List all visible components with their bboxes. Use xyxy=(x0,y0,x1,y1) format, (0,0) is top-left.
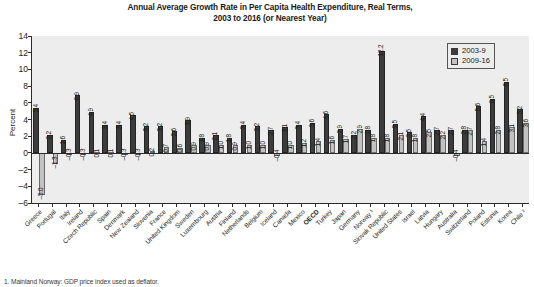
bar-value-label: 3.1 xyxy=(508,124,514,132)
bar-value-label: 3.2 xyxy=(143,123,149,131)
bar-value-label: 3.1 xyxy=(281,124,287,132)
x-axis-tick-mark xyxy=(287,203,288,207)
bar xyxy=(130,115,136,153)
bar-value-label: 5.4 xyxy=(32,104,38,112)
x-axis-tick-mark xyxy=(232,203,233,207)
x-axis-tick-mark xyxy=(494,203,495,207)
x-axis-tick-mark xyxy=(52,203,53,207)
bar-value-label: 1.8 xyxy=(384,134,390,142)
bar-value-label: 2.8 xyxy=(495,126,501,134)
y-axis-tick-mark xyxy=(28,52,31,53)
bar-value-label: 12.2 xyxy=(378,44,384,56)
bar-value-label: 1.0 xyxy=(246,141,252,149)
x-axis-line xyxy=(31,203,529,204)
x-axis-tick-mark xyxy=(93,203,94,207)
bar-value-label: 2.7 xyxy=(467,127,473,135)
x-axis-tick-mark xyxy=(121,203,122,207)
bar-value-label: 0.9 xyxy=(190,142,196,150)
x-axis-tick-mark xyxy=(398,203,399,207)
bar-value-label: 0.7 xyxy=(163,144,169,152)
x-axis-tick-mark xyxy=(508,203,509,207)
legend-item-2003-9: 2003-9 xyxy=(451,46,490,56)
x-axis-tick-mark xyxy=(245,203,246,207)
x-axis-tick-mark xyxy=(453,203,454,207)
x-axis-tick-mark xyxy=(149,203,150,207)
chart-title-line-1: Annual Average Growth Rate in Per Capita… xyxy=(40,3,500,14)
y-axis-tick-mark xyxy=(28,69,31,70)
x-axis-tick-mark xyxy=(38,203,39,207)
bar-value-label: 2.2 xyxy=(439,131,445,139)
y-axis-tick-mark xyxy=(28,119,31,120)
legend-label-2003-9: 2003-9 xyxy=(462,46,486,56)
bar-value-label: 0.6 xyxy=(176,144,182,152)
x-axis-tick-mark xyxy=(522,203,523,207)
bar-value-label: 1.4 xyxy=(481,138,487,146)
x-axis-tick-mark xyxy=(467,203,468,207)
bar-value-label: 3.5 xyxy=(392,120,398,128)
bar-value-label: 4.4 xyxy=(419,113,425,121)
bar-value-label: 0.9 xyxy=(232,142,238,150)
bar-value-label: 3.6 xyxy=(309,119,315,127)
x-axis-tick-mark xyxy=(328,203,329,207)
chart-footnote: 1. Mainland Norway: GDP price index used… xyxy=(4,278,159,285)
bar-value-label: 5.2 xyxy=(516,106,522,114)
chart-title: Annual Average Growth Rate in Per Capita… xyxy=(40,3,500,24)
bar-value-label: –1.3 xyxy=(52,157,58,169)
y-axis-tick-mark xyxy=(28,186,31,187)
y-axis-tick-mark xyxy=(28,152,31,153)
bar-value-label: 3.4 xyxy=(295,121,301,129)
bar-value-label: 6.5 xyxy=(489,95,495,103)
chart-container: Annual Average Growth Rate in Per Capita… xyxy=(0,0,534,287)
x-axis-tick-mark xyxy=(204,203,205,207)
bar-value-label: 2.2 xyxy=(46,131,52,139)
y-axis-tick-mark xyxy=(28,203,31,204)
chart-title-line-2: 2003 to 2016 (or Nearest Year) xyxy=(40,14,500,25)
bar-value-label: 4.6 xyxy=(323,111,329,119)
bar xyxy=(324,114,330,152)
y-axis-tick-mark xyxy=(28,102,31,103)
bar-value-label: 5.6 xyxy=(475,103,481,111)
x-axis-tick-mark xyxy=(162,203,163,207)
bar-value-label: 1.8 xyxy=(412,134,418,142)
bar-value-label: 3.2 xyxy=(253,123,259,131)
bar-value-label: 2.7 xyxy=(447,127,453,135)
bar-value-label: 1.0 xyxy=(287,141,293,149)
bar-value-label: –0.3 xyxy=(66,149,72,161)
x-axis-tick-mark xyxy=(176,203,177,207)
zero-line xyxy=(32,153,529,154)
bar-value-label: 6.9 xyxy=(74,92,80,100)
bar-value-label: 1.2 xyxy=(301,139,307,147)
bar-value-label: 1.8 xyxy=(370,134,376,142)
legend-swatch-dark-icon xyxy=(451,48,458,55)
bar xyxy=(89,112,95,153)
x-axis-tick-mark xyxy=(107,203,108,207)
bar xyxy=(504,82,510,153)
x-axis-tick-mark xyxy=(370,203,371,207)
bar-value-label: 3.6 xyxy=(522,119,528,127)
bar-value-label: –0.4 xyxy=(273,150,279,162)
bar-value-label: 2.9 xyxy=(336,125,342,133)
y-axis-tick-mark xyxy=(28,136,31,137)
y-axis-tick-mark xyxy=(28,36,31,37)
x-axis-tick-mark xyxy=(342,203,343,207)
bar-value-label: 8.5 xyxy=(502,79,508,87)
x-axis-tick-mark xyxy=(190,203,191,207)
bar-value-label: 4.9 xyxy=(87,109,93,117)
x-axis-tick-mark xyxy=(384,203,385,207)
x-axis-tick-mark xyxy=(66,203,67,207)
x-axis-tick-mark xyxy=(79,203,80,207)
x-axis-tick-mark xyxy=(356,203,357,207)
chart-legend: 2003-9 2009-16 xyxy=(447,43,495,69)
bar-value-label: 3.9 xyxy=(184,117,190,125)
legend-item-2009-16: 2009-16 xyxy=(451,56,490,66)
bar xyxy=(33,108,39,153)
bar-value-label: 1.6 xyxy=(60,136,66,144)
bar xyxy=(517,109,523,152)
bar-value-label: 2.9 xyxy=(356,125,362,133)
bar-value-label: 1.0 xyxy=(259,141,265,149)
bar-value-label: 3.4 xyxy=(115,121,121,129)
x-axis-tick-mark xyxy=(439,203,440,207)
bar-value-label: 1.0 xyxy=(218,141,224,149)
bar-value-label: 2.1 xyxy=(398,132,404,140)
bar-value-label: 3.4 xyxy=(101,121,107,129)
